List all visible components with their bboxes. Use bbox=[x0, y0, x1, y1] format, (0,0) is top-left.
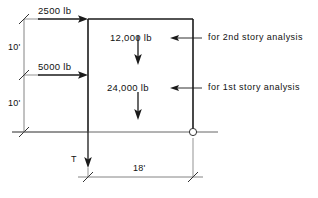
note-first-story-analysis: for 1st story analysis bbox=[208, 83, 300, 92]
tension-force-arrow bbox=[84, 132, 92, 168]
vertical-load-label-12000: 12,000 lb bbox=[110, 33, 152, 43]
diagram-canvas bbox=[0, 0, 318, 198]
note-second-story-analysis: for 2nd story analysis bbox=[208, 33, 303, 42]
dimension-label-story-height-lower: 10' bbox=[8, 99, 21, 108]
lateral-load-label-5000: 5000 lb bbox=[38, 62, 71, 72]
tension-force-label: T bbox=[71, 155, 77, 164]
leader-line-second-story bbox=[170, 35, 202, 41]
lateral-load-arrow-2500 bbox=[38, 15, 88, 23]
lateral-load-arrow-5000 bbox=[38, 71, 88, 79]
frame-diagram: 2500 lb 5000 lb 12,000 lb 24,000 lb for … bbox=[0, 0, 318, 198]
vertical-load-label-24000: 24,000 lb bbox=[107, 83, 149, 93]
vertical-load-arrow-24000 bbox=[134, 92, 142, 120]
pin-support-icon bbox=[189, 128, 196, 135]
lateral-load-label-2500: 2500 lb bbox=[38, 6, 71, 16]
horizontal-dimension-line bbox=[78, 138, 203, 182]
dimension-label-bay-width: 18' bbox=[133, 164, 146, 173]
dimension-label-story-height-upper: 10' bbox=[8, 43, 21, 52]
leader-line-first-story bbox=[170, 85, 202, 91]
